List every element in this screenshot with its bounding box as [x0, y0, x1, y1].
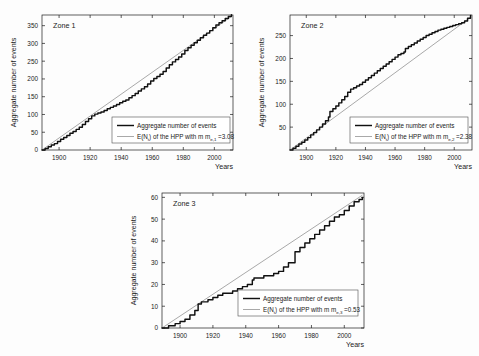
- x-axis-title: Years: [215, 163, 233, 171]
- y-tick-label: 60: [151, 194, 159, 201]
- x-tick-label: 2000: [207, 154, 222, 161]
- y-tick-label: 150: [27, 93, 38, 100]
- y-tick-label: 200: [27, 75, 38, 82]
- x-tick-label: 1900: [173, 332, 188, 339]
- x-tick-label: 1980: [176, 154, 191, 161]
- zone-title: Zone 3: [173, 199, 195, 208]
- x-tick-label: 1940: [239, 332, 254, 339]
- zone-2-plot: 50100150200250190019201940196019802000Ag…: [240, 2, 479, 178]
- y-tick-label: 0: [34, 146, 38, 153]
- y-tick-label: 10: [151, 303, 159, 310]
- zone-title: Zone 2: [301, 21, 323, 30]
- y-tick-label: 0: [154, 324, 158, 331]
- y-tick-label: 250: [275, 32, 286, 39]
- y-tick-label: 300: [27, 40, 38, 47]
- x-tick-label: 1940: [358, 154, 373, 161]
- y-tick-label: 150: [275, 78, 286, 85]
- x-tick-label: 1980: [418, 154, 433, 161]
- y-tick-label: 100: [275, 101, 286, 108]
- x-tick-label: 1920: [83, 154, 98, 161]
- y-axis-title: Aggregate number of events: [130, 215, 138, 305]
- x-tick-label: 1900: [52, 154, 67, 161]
- y-tick-label: 100: [27, 111, 38, 118]
- y-tick-label: 40: [151, 237, 159, 244]
- y-tick-label: 20: [151, 281, 159, 288]
- x-tick-label: 2000: [447, 154, 462, 161]
- x-tick-label: 1960: [145, 154, 160, 161]
- y-tick-label: 250: [27, 58, 38, 65]
- y-tick-label: 30: [151, 259, 159, 266]
- y-tick-label: 50: [151, 216, 159, 223]
- y-axis-title: Aggregate number of events: [258, 37, 266, 127]
- x-tick-label: 2000: [337, 332, 352, 339]
- y-axis-title: Aggregate number of events: [10, 37, 18, 127]
- y-tick-label: 350: [27, 22, 38, 29]
- legend-label-empirical: Aggregate number of events: [375, 122, 454, 130]
- subplot-zone-3: 0102030405060190019201940196019802000Agg…: [112, 180, 374, 356]
- x-axis-title: Years: [454, 163, 472, 171]
- zone-3-plot: 0102030405060190019201940196019802000Agg…: [112, 180, 374, 356]
- x-axis-title: Years: [346, 341, 364, 349]
- legend-label-empirical: Aggregate number of events: [137, 122, 216, 130]
- x-tick-label: 1900: [299, 154, 314, 161]
- figure-canvas: 0501001502002503003501900192019401960198…: [0, 0, 479, 356]
- subplot-zone-1: 0501001502002503003501900192019401960198…: [0, 2, 240, 178]
- y-tick-label: 200: [275, 55, 286, 62]
- zone-title: Zone 1: [53, 21, 75, 30]
- x-tick-label: 1940: [114, 154, 129, 161]
- x-tick-label: 1980: [304, 332, 319, 339]
- zone-1-plot: 0501001502002503003501900192019401960198…: [0, 2, 240, 178]
- x-tick-label: 1920: [206, 332, 221, 339]
- x-tick-label: 1960: [388, 154, 403, 161]
- x-tick-label: 1960: [271, 332, 286, 339]
- subplot-zone-2: 50100150200250190019201940196019802000Ag…: [240, 2, 479, 178]
- x-tick-label: 1920: [329, 154, 344, 161]
- legend-label-empirical: Aggregate number of events: [263, 295, 342, 303]
- y-tick-label: 50: [279, 124, 287, 131]
- y-tick-label: 50: [31, 129, 39, 136]
